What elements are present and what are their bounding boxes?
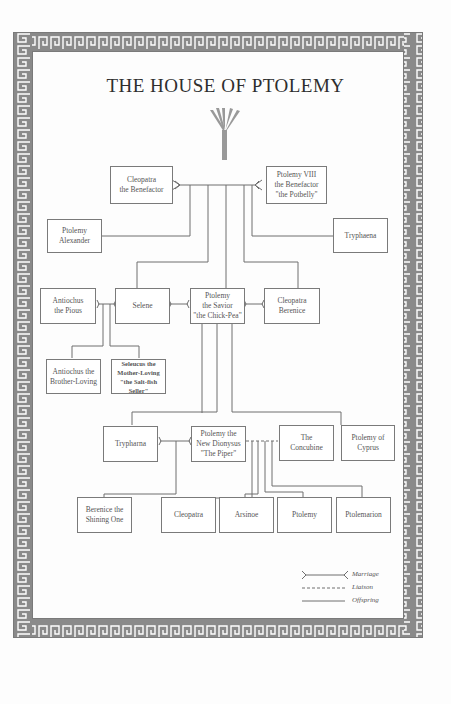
person-antiochus-the-pious: Antiochus the Pious	[40, 288, 96, 324]
person-ptolemy-viii: Ptolemy VIII the Benefactor "the Potbell…	[266, 166, 327, 204]
person-berenice-the-shining-one: Berenice the Shining One	[77, 497, 132, 533]
legend-marriage: Marriage	[352, 570, 379, 578]
person-antiochus-the-brother-loving: Antiochus the Brother-Loving	[46, 359, 101, 394]
person-tryphaena: Tryphaena	[333, 218, 388, 253]
person-seleucus-the-mother-loving: Seleucus the Mother-Loving "the Salt-fis…	[111, 359, 166, 394]
person-cleopatra: Cleopatra	[161, 497, 216, 533]
person-cleopatra-berenice: Cleopatra Berenice	[264, 288, 320, 324]
legend-offspring: Offspring	[352, 596, 379, 604]
person-ptolemy-of-cyprus: Ptolemy of Cyprus	[341, 425, 395, 461]
legend-liaison: Liaison	[352, 583, 373, 591]
person-selene: Selene	[115, 288, 170, 324]
person-trypharna: Trypharna	[103, 426, 158, 462]
person-ptolemy-the-savior: Ptolemy the Savior "the Chick-Pea"	[190, 288, 245, 324]
person-cleopatra-the-benefactor: Cleopatra the Benefactor	[110, 166, 173, 204]
connector-lines	[0, 0, 451, 704]
person-ptolemy-alexander: Ptolemy Alexander	[47, 219, 102, 253]
person-ptolemarion: Ptolemarion	[336, 497, 391, 533]
person-ptolemy-the-new-dionysus: Ptolemy the New Dionysus "The Piper"	[191, 426, 246, 462]
person-ptolemy: Ptolemy	[277, 497, 332, 533]
person-arsinoe: Arsinoe	[219, 497, 274, 533]
person-the-concubine: The Concubine	[279, 425, 334, 461]
